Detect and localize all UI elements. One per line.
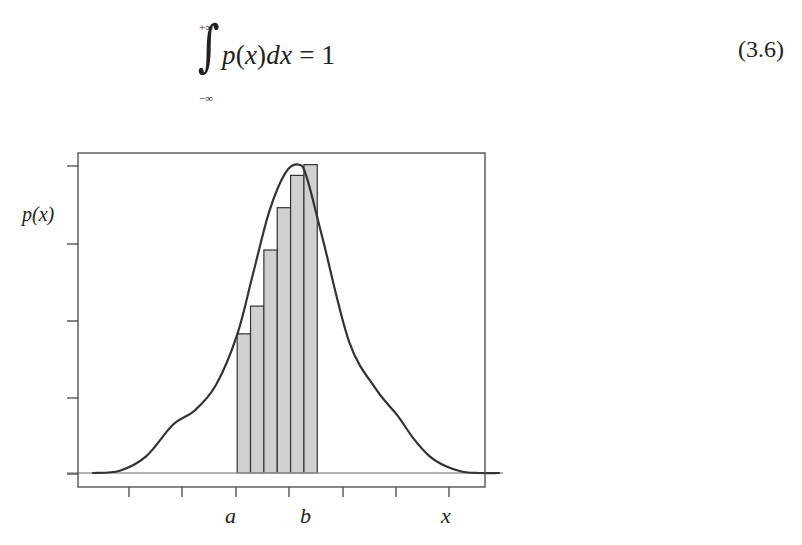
histogram-bar — [277, 208, 290, 473]
histogram-bars — [237, 165, 317, 473]
histogram-bar — [264, 250, 277, 473]
y-axis-ticks — [67, 166, 78, 474]
x-label-x: x — [441, 503, 451, 529]
histogram-bar — [237, 334, 250, 473]
histogram-bar — [291, 175, 304, 473]
density-figure: p(x) a b x — [0, 0, 802, 545]
histogram-bar — [251, 306, 264, 473]
density-plot — [0, 0, 802, 545]
x-axis-ticks — [129, 487, 449, 497]
x-label-b: b — [300, 503, 311, 529]
x-label-a: a — [225, 503, 236, 529]
